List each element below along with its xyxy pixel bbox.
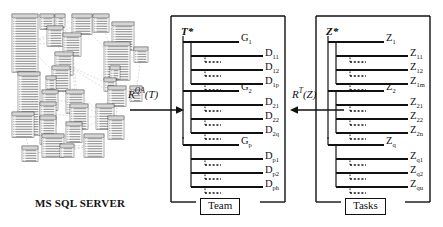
group-label: Gp <box>241 136 252 149</box>
leaf-sub: ph <box>273 184 280 191</box>
leaf-label: Z2n <box>410 125 423 138</box>
team-caption-text: Team <box>208 199 232 211</box>
group-base: G <box>241 135 249 146</box>
team-root-base: T <box>181 25 188 37</box>
group-label: G2 <box>241 82 252 95</box>
leaf-sub: q2 <box>416 170 423 177</box>
group-label: G1 <box>241 33 252 46</box>
leaf-base: D <box>265 47 273 58</box>
leaf-sub: 12 <box>273 67 280 74</box>
team-panel-caption: Team <box>200 198 240 215</box>
group-sub: 1 <box>392 38 395 45</box>
group-sub: p <box>249 141 252 148</box>
tasks-panel-caption: Tasks <box>345 198 386 215</box>
leaf-label: Zq2 <box>410 165 423 178</box>
leaf-label: Z12 <box>410 62 423 75</box>
leaf-sub: p2 <box>273 170 280 177</box>
leaf-sub: p1 <box>273 156 280 163</box>
group-label: Z2 <box>386 82 396 95</box>
group-sub: 2 <box>392 87 395 94</box>
leaf-sub: 1m <box>416 81 424 88</box>
arrow-rqa-t-base: R <box>128 88 135 100</box>
leaf-label: Z11 <box>410 48 423 61</box>
leaf-label: D11 <box>265 48 279 61</box>
leaf-sub: 21 <box>273 102 280 109</box>
leaf-base: D <box>265 178 273 189</box>
team-root-sub: * <box>188 25 194 37</box>
group-base: G <box>241 81 249 92</box>
team-root-label: T* <box>181 26 193 37</box>
arrow-rqa-t-arg: (T) <box>145 88 158 100</box>
leaf-sub: 2n <box>416 130 423 137</box>
leaf-base: D <box>265 96 273 107</box>
leaf-sub: 12 <box>416 67 423 74</box>
tasks-root-sub: * <box>333 25 339 37</box>
leaf-base: D <box>265 124 273 135</box>
arrow-rqa-t-sup: QA <box>135 86 145 95</box>
leaf-label: Z21 <box>410 97 423 110</box>
group-sub: q <box>392 141 395 148</box>
leaf-label: Dph <box>265 179 279 192</box>
leaf-base: D <box>265 164 273 175</box>
leaf-label: D2q <box>265 125 279 138</box>
leaf-label: D22 <box>265 111 279 124</box>
leaf-base: D <box>265 61 273 72</box>
group-base: G <box>241 32 249 43</box>
leaf-sub: 2q <box>273 130 280 137</box>
figure-root: MS SQL SERVER RQA(T) RT(Z) T* Team G1D11… <box>0 0 443 227</box>
leaf-sub: qu <box>416 184 423 191</box>
leaf-label: D12 <box>265 62 279 75</box>
leaf-base: D <box>265 75 273 86</box>
leaf-label: D1p <box>265 76 279 89</box>
leaf-label: Zq1 <box>410 151 423 164</box>
leaf-sub: 22 <box>416 116 423 123</box>
arrow-rt-z-base: R <box>292 88 299 100</box>
leaf-sub: 22 <box>273 116 280 123</box>
leaf-base: D <box>265 150 273 161</box>
group-label: Zq <box>386 136 396 149</box>
leaf-label: Zqu <box>410 179 423 192</box>
leaf-label: D21 <box>265 97 279 110</box>
leaf-sub: 1p <box>273 81 280 88</box>
tasks-caption-text: Tasks <box>353 199 378 211</box>
leaf-label: Dp1 <box>265 151 279 164</box>
leaf-sub: q1 <box>416 156 423 163</box>
leaf-label: Z1m <box>410 76 425 89</box>
leaf-sub: 21 <box>416 102 423 109</box>
leaf-sub: 11 <box>273 53 279 60</box>
group-sub: 2 <box>249 87 252 94</box>
tasks-root-base: Z <box>326 25 333 37</box>
tasks-tree-panel: Z* Tasks Z1Z11Z12Z1mZ2Z21Z22Z2nZqZq1Zq2Z… <box>312 12 434 214</box>
group-sub: 1 <box>249 38 252 45</box>
arrow-rqa-t-label: RQA(T) <box>128 86 158 100</box>
team-tree-panel: T* Team G1D11D12D1pG2D21D22D2qGpDp1Dp2Dp… <box>167 12 289 214</box>
leaf-sub: 11 <box>416 53 422 60</box>
leaf-label: Dp2 <box>265 165 279 178</box>
er-diagram-caption: MS SQL SERVER <box>0 197 160 209</box>
tasks-root-label: Z* <box>326 26 338 37</box>
group-label: Z1 <box>386 33 396 46</box>
leaf-label: Z22 <box>410 111 423 124</box>
leaf-base: D <box>265 110 273 121</box>
